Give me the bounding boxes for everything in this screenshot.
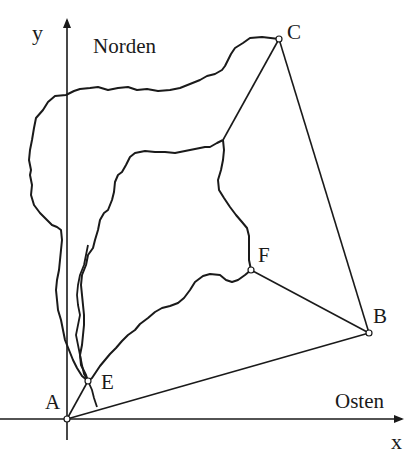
x-axis-label: x [391,431,402,453]
point-f-label: F [258,245,270,266]
point-c-marker [276,36,282,42]
point-e-marker [85,378,91,384]
point-a-label: A [45,392,60,413]
surveying-diagram: y Norden C F B E A Osten x [0,0,417,467]
north-label: Norden [93,36,156,57]
point-c-label: C [287,22,301,43]
spur-e-down [88,381,97,407]
point-b-marker [366,330,372,336]
east-label: Osten [335,391,384,412]
segment-b-c [279,39,369,333]
lower-boundary [88,270,251,381]
y-axis-label: y [32,22,43,44]
point-e-label: E [101,372,114,393]
segment-b-f [251,270,369,333]
point-b-label: B [373,306,387,327]
point-f-marker [248,267,254,273]
point-a-marker [64,416,70,422]
inner-boundary-right [218,140,251,270]
inner-boundary [80,140,223,381]
